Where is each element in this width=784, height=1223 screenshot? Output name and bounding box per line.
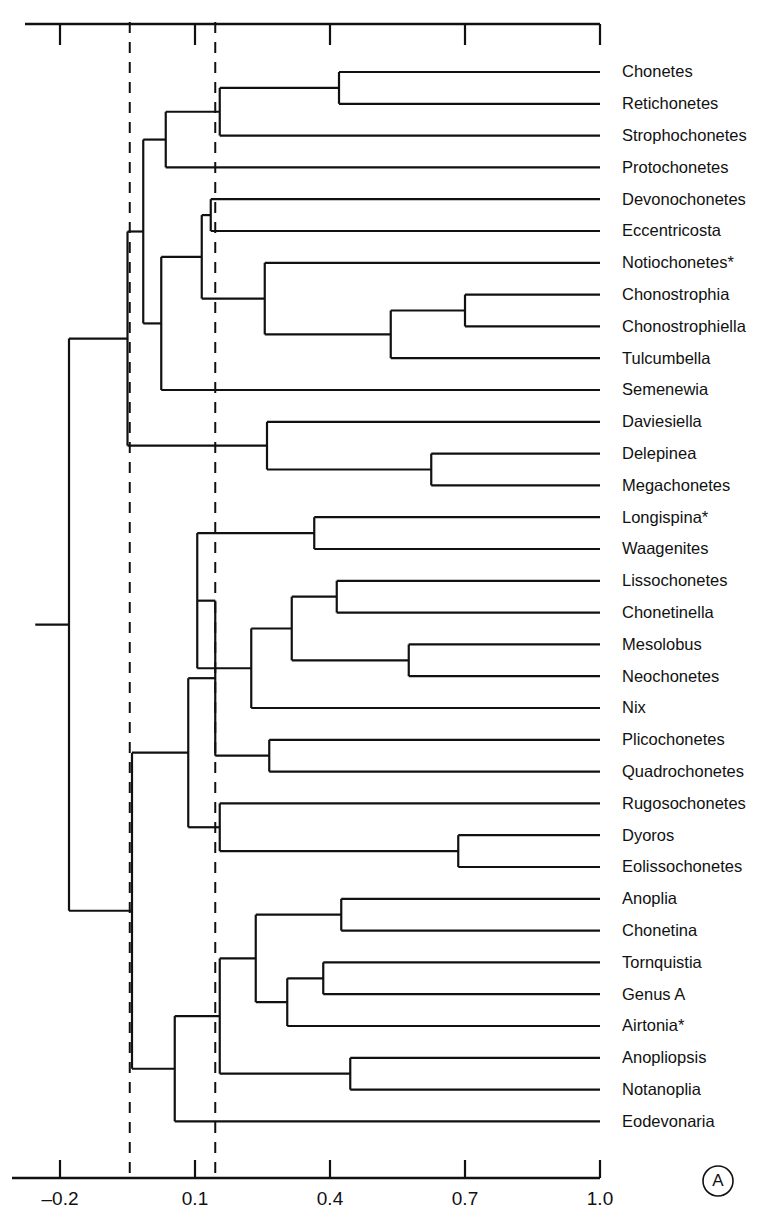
taxon-label: Dyoros [622, 826, 674, 844]
taxon-label: Notanoplia [622, 1080, 702, 1098]
taxon-label: Chonetes [622, 62, 693, 80]
taxon-label: Waagenites [622, 539, 709, 557]
taxon-label: Chonetinella [622, 603, 715, 621]
taxon-label: Neochonetes [622, 667, 719, 685]
tree-branches [35, 72, 600, 1121]
dendrogram-svg: ChonetesRetichonetesStrophochonetesProto… [0, 0, 784, 1223]
taxon-label: Rugosochonetes [622, 794, 746, 812]
taxon-label: Tulcumbella [622, 349, 711, 367]
panel-letter-badge: A [703, 1166, 733, 1196]
taxon-label: Plicochonetes [622, 730, 725, 748]
taxon-label: Retichonetes [622, 94, 718, 112]
taxon-label: Megachonetes [622, 476, 730, 494]
taxon-label: Nix [622, 698, 647, 716]
bottom-axis: –0.20.10.40.71.0 [12, 1160, 613, 1209]
bottom-axis-tick-label: 0.1 [182, 1188, 208, 1209]
taxon-label: Chonostrophiella [622, 317, 747, 335]
taxon-label: Semenewia [622, 380, 709, 398]
taxon-label: Chonostrophia [622, 285, 730, 303]
taxon-label: Strophochonetes [622, 126, 747, 144]
bottom-axis-tick-label: 0.4 [317, 1188, 344, 1209]
taxon-label: Daviesiella [622, 412, 703, 430]
taxon-label: Quadrochonetes [622, 762, 744, 780]
taxon-label: Devonochonetes [622, 190, 746, 208]
taxon-label: Anoplia [622, 889, 678, 907]
taxon-label: Lissochonetes [622, 571, 728, 589]
taxon-label: Protochonetes [622, 158, 728, 176]
top-axis [25, 24, 600, 45]
taxon-label: Eolissochonetes [622, 857, 742, 875]
bottom-axis-tick-label: 0.7 [452, 1188, 478, 1209]
taxon-label: Notiochonetes* [622, 253, 734, 271]
taxon-label: Tornquistia [622, 953, 703, 971]
taxon-label: Delepinea [622, 444, 697, 462]
panel-letter-text: A [712, 1171, 724, 1190]
taxon-label: Longispina* [622, 508, 709, 526]
dendrogram-figure: ChonetesRetichonetesStrophochonetesProto… [0, 0, 784, 1223]
taxon-label: Genus A [622, 985, 685, 1003]
taxon-label: Mesolobus [622, 635, 702, 653]
taxon-label: Eodevonaria [622, 1112, 715, 1130]
taxon-label: Anopliopsis [622, 1048, 706, 1066]
taxon-label: Chonetina [622, 921, 698, 939]
taxon-label: Airtonia* [622, 1016, 685, 1034]
bottom-axis-tick-label: –0.2 [42, 1188, 79, 1209]
taxon-labels: ChonetesRetichonetesStrophochonetesProto… [622, 62, 747, 1129]
bottom-axis-tick-label: 1.0 [587, 1188, 613, 1209]
taxon-label: Eccentricosta [622, 221, 722, 239]
